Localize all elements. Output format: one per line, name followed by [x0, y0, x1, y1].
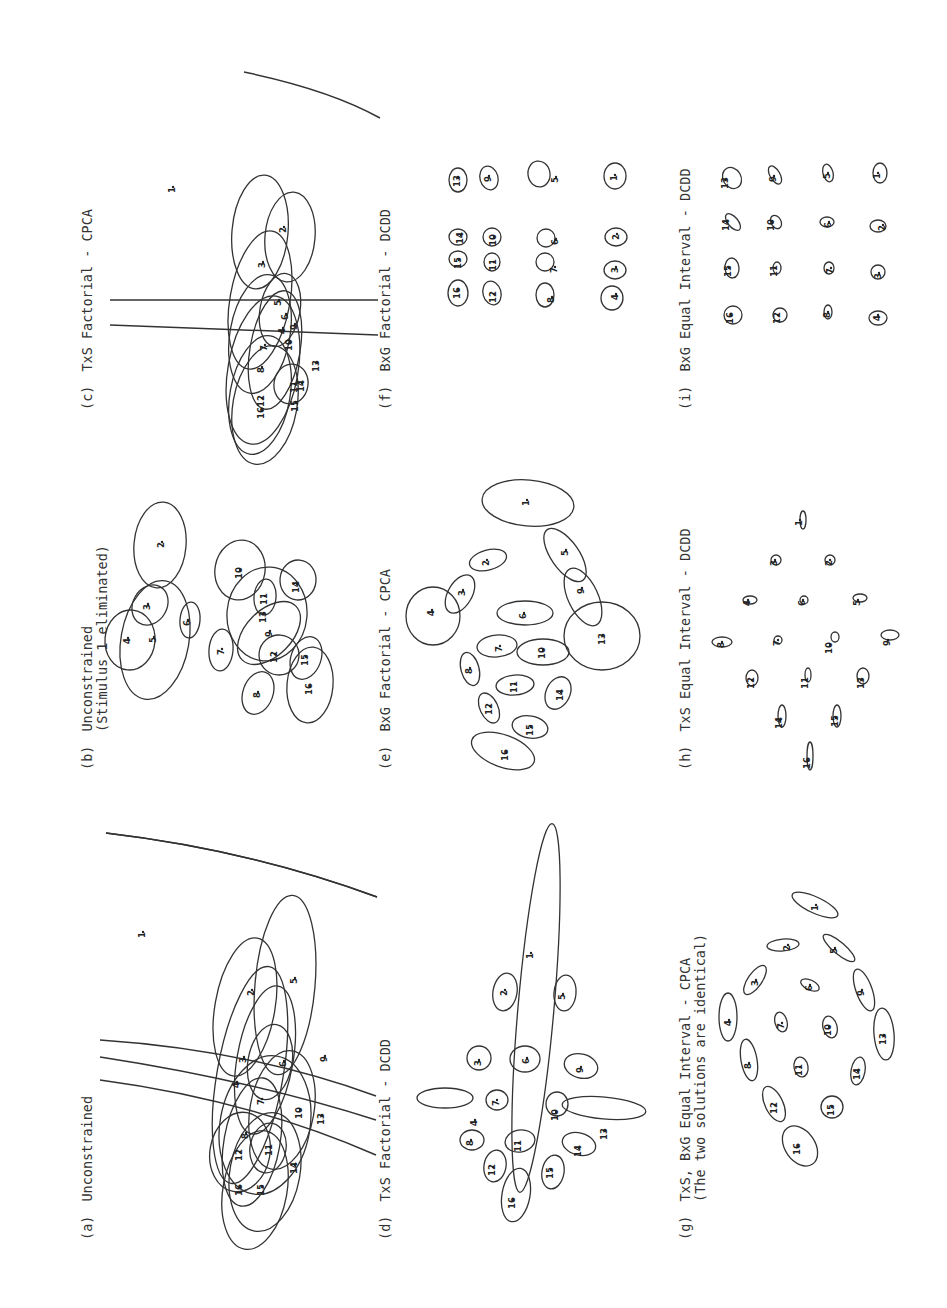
stimulus-label: 9: [264, 631, 274, 637]
stimulus-label: 10: [234, 567, 244, 579]
panel-label: (b): [79, 746, 95, 770]
stimulus-label: 12: [269, 651, 279, 663]
stimulus-label: 10: [294, 1107, 304, 1119]
stimulus-label: 6: [797, 600, 807, 606]
stimulus-label: 12: [746, 677, 756, 689]
stimulus-label: 12: [487, 1164, 497, 1176]
stimulus-label: 15: [826, 1104, 836, 1116]
stimulus-label: 3: [610, 267, 620, 273]
panel-title-line: TxS Factorial - CPCA: [79, 209, 95, 372]
stimulus-label: 3: [238, 1057, 248, 1063]
stimulus-label: 12: [488, 291, 498, 303]
confidence-ellipse: [247, 893, 322, 1078]
confidence-ellipse: [209, 1048, 322, 1202]
confidence-ellipse: [526, 159, 552, 188]
stimulus-label: 16: [725, 312, 735, 324]
ellipse-arc: [106, 833, 377, 897]
ellipse-arc: [106, 833, 377, 897]
stimulus-label: 2: [156, 542, 166, 548]
stimulus-label: 12: [256, 395, 266, 407]
stimulus-label: 15: [545, 1167, 555, 1179]
confidence-ellipse: [261, 190, 319, 284]
stimulus-label: 9: [576, 588, 586, 594]
stimulus-label: 3: [457, 590, 467, 596]
stimulus-label: 11: [259, 593, 269, 605]
confidence-ellipse: [873, 163, 887, 183]
panel-label: (g): [677, 1216, 693, 1240]
stimulus-label: 5: [148, 637, 158, 643]
stimulus-label: 4: [277, 328, 287, 334]
stimulus-label: 2: [824, 560, 834, 566]
stimulus-label: 11: [264, 1144, 274, 1156]
stimulus-label: 8: [252, 692, 262, 698]
panel-d: (d)TxS Factorial - DCDD12345678910111213…: [106, 822, 647, 1240]
stimulus-label: 16: [234, 1184, 244, 1196]
stimulus-label: 1: [872, 173, 882, 179]
stimulus-label: 4: [872, 315, 882, 321]
panel-c: (c)TxS Factorial - CPCA12345678910111213…: [79, 72, 380, 470]
stimulus-label: 9: [768, 176, 778, 182]
stimulus-label: 11: [488, 259, 498, 271]
panel-e: (e)BxG Factorial - CPCA12345678910111213…: [377, 476, 640, 777]
confidence-ellipse: [561, 1093, 647, 1122]
stimulus-label: 14: [555, 689, 565, 701]
stimulus-label: 9: [289, 324, 299, 330]
panel-caption: (b)Unconstrained(Stimulus 1 eliminated): [79, 545, 110, 770]
stimulus-label: 7: [825, 268, 835, 274]
stimulus-label: 2: [499, 990, 509, 996]
panel-caption: (d)TxS Factorial - DCDD: [377, 1039, 393, 1240]
stimulus-label: 5: [560, 550, 570, 556]
stimulus-label: 6: [823, 222, 833, 228]
stimulus-label: 16: [802, 757, 812, 769]
stimulus-label: 5: [829, 948, 839, 954]
stimulus-label: 13: [856, 677, 866, 689]
confidence-ellipse: [831, 632, 839, 642]
stimulus-label: 6: [518, 613, 528, 619]
stimulus-label: 2: [782, 945, 792, 951]
stimulus-label: 13: [599, 1128, 609, 1140]
stimulus-label: 10: [537, 647, 547, 659]
stimulus-label: 13: [878, 1033, 888, 1045]
stimulus-label: 15: [525, 724, 535, 736]
stimulus-label: 1: [167, 187, 177, 193]
stimulus-label: 2: [481, 560, 491, 566]
stimulus-label: 5: [550, 177, 560, 183]
stimulus-label: 7: [494, 646, 504, 652]
stimulus-label: 13: [452, 175, 462, 187]
stimulus-label: 12: [484, 703, 494, 715]
panel-caption: (c)TxS Factorial - CPCA: [79, 209, 95, 410]
stimulus-label: 14: [296, 380, 306, 392]
stimulus-label: 15: [453, 257, 463, 269]
stimulus-label: 1: [609, 175, 619, 181]
panel-label: (e): [377, 746, 393, 770]
stimulus-label: 14: [289, 1162, 299, 1174]
stimulus-label: 12: [769, 1102, 779, 1114]
stimulus-label: 4: [426, 610, 436, 616]
stimulus-label: 12: [234, 1149, 244, 1161]
panel-title-line: TxS Factorial - DCDD: [377, 1039, 393, 1202]
figure: (a)Unconstrained12345678910111213141516(…: [0, 0, 947, 1308]
confidence-ellipse: [719, 993, 737, 1041]
stimulus-label: 9: [575, 1067, 585, 1073]
confidence-ellipse: [502, 822, 570, 1194]
panel-label: (a): [79, 1216, 95, 1240]
stimulus-label: 14: [852, 1068, 862, 1080]
stimulus-label: 4: [469, 1120, 479, 1126]
stimulus-label: 1: [794, 520, 804, 526]
stimulus-label: 8: [256, 367, 266, 373]
panel-caption: (e)BxG Factorial - CPCA: [377, 569, 393, 770]
confidence-ellipse: [417, 1088, 473, 1108]
stimulus-label: 2: [278, 227, 288, 233]
panel-title-line: Unconstrained: [79, 1096, 95, 1202]
stimulus-label: 10: [823, 1024, 833, 1036]
panel-caption: (i)BxG Equal Interval - DCDD: [677, 168, 693, 410]
panel-title-line: BxG Equal Interval - DCDD: [677, 168, 693, 371]
stimulus-label: 6: [804, 985, 814, 991]
stimulus-label: 16: [304, 683, 314, 695]
stimulus-label: 15: [256, 1184, 266, 1196]
panel-f: (f)BxG Factorial - DCDD12345678910111213…: [377, 159, 627, 410]
stimulus-label: 4: [723, 1020, 733, 1026]
stimulus-label: 13: [316, 1113, 326, 1125]
stimulus-label: 11: [769, 265, 779, 277]
panel-g: (g)TxS, BxG Equal Interval - CPCA(The tw…: [677, 887, 896, 1240]
